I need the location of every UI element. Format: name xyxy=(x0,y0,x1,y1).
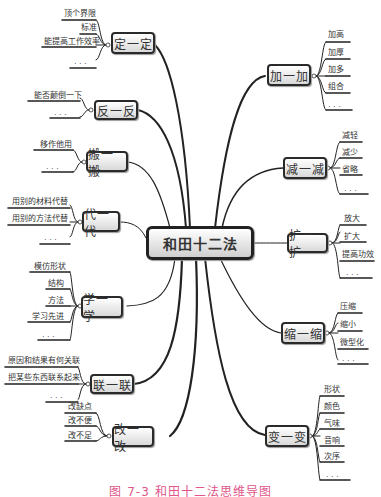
leaf-item: 方法 xyxy=(48,296,64,306)
leaf-item: 减轻 xyxy=(342,131,358,141)
branch-label: 减一减 xyxy=(286,160,325,177)
leaf-item: 形状 xyxy=(324,385,340,395)
leaf-item: 加厚 xyxy=(328,48,344,58)
figure-caption: 图 7-3 和田十二法思维导图 xyxy=(0,482,381,497)
leaf-item: 省略 xyxy=(342,165,358,175)
branch-kuo[interactable]: 扩一扩 xyxy=(287,233,328,253)
leaf-item: . . . xyxy=(42,330,55,340)
leaf-item: 顶个界限 xyxy=(64,9,96,19)
leaf-item: 把某些东西联系起来 xyxy=(8,373,80,383)
leaf-item: 标准 xyxy=(81,23,97,33)
branch-label: 反一反 xyxy=(97,102,136,119)
leaf-item: 压缩 xyxy=(340,302,356,312)
branch-xue[interactable]: 学一学 xyxy=(81,296,123,318)
branch-label: 学一学 xyxy=(83,290,121,324)
leaf-item: 能提高工作效率 xyxy=(44,37,100,47)
branch-label: 缩一缩 xyxy=(284,325,323,342)
leaf-item: 组合 xyxy=(328,82,344,92)
branch-fan[interactable]: 反一反 xyxy=(94,100,138,120)
leaf-item: 音响 xyxy=(324,436,340,446)
leaf-item: 次序 xyxy=(324,452,340,462)
branch-jian[interactable]: 减一减 xyxy=(283,157,327,179)
leaf-item: 放大 xyxy=(344,214,360,224)
leaf-item: 加高 xyxy=(328,30,344,40)
center-label: 和田十二法 xyxy=(163,233,238,253)
leaf-item: 改不足 xyxy=(68,431,92,441)
branch-label: 搬一搬 xyxy=(88,145,126,179)
branch-label: 联一联 xyxy=(93,376,132,393)
leaf-item: 颜色 xyxy=(324,402,340,412)
branch-label: 定一定 xyxy=(114,35,153,52)
branch-ding[interactable]: 定一定 xyxy=(111,32,155,54)
leaf-item: . . . xyxy=(50,391,63,401)
leaf-item: 缩小 xyxy=(340,320,356,330)
leaf-item: . . . xyxy=(342,354,355,364)
branch-lian[interactable]: 联一联 xyxy=(90,374,134,394)
leaf-item: 能否颠倒一下 xyxy=(34,91,82,101)
leaf-item: 改缺点 xyxy=(68,402,92,412)
leaf-item: . . . xyxy=(54,108,67,118)
leaf-item: . . . xyxy=(344,184,357,194)
leaf-item: 加多 xyxy=(328,65,344,75)
leaf-item: . . . xyxy=(44,233,57,243)
branch-label: 改一改 xyxy=(114,420,152,454)
leaf-item: 改不便 xyxy=(68,416,92,426)
leaf-item: . . . xyxy=(328,100,341,110)
leaf-item: 减少 xyxy=(342,148,358,158)
branch-ban[interactable]: 搬一搬 xyxy=(86,151,128,172)
leaf-item: 学习先进 xyxy=(32,312,64,322)
branch-label: 代一代 xyxy=(84,205,118,239)
leaf-item: 模仿形状 xyxy=(34,262,66,272)
branch-bian[interactable]: 变一变 xyxy=(265,425,309,447)
leaf-item: . . . xyxy=(326,470,339,480)
leaf-item: 提高功效 xyxy=(342,250,374,260)
leaf-item: 结构 xyxy=(48,279,64,289)
branch-label: 变一变 xyxy=(268,428,307,445)
leaf-item: 用别的方法代替 xyxy=(12,214,68,224)
branch-label: 加一加 xyxy=(270,67,309,84)
leaf-item: 移作他用 xyxy=(40,140,72,150)
center-node[interactable]: 和田十二法 xyxy=(146,226,254,260)
leaf-item: 扩大 xyxy=(344,232,360,242)
leaf-item: . . . xyxy=(74,57,87,67)
branch-dai[interactable]: 代一代 xyxy=(82,211,120,232)
leaf-item: 原因和结果有何关联 xyxy=(8,356,80,366)
branch-jia[interactable]: 加一加 xyxy=(267,64,311,86)
branch-gai[interactable]: 改一改 xyxy=(112,426,154,447)
branch-suo[interactable]: 缩一缩 xyxy=(281,322,325,344)
branch-label: 扩一扩 xyxy=(289,226,326,260)
leaf-item: . . . xyxy=(346,268,359,278)
leaf-item: 微型化 xyxy=(340,338,364,348)
leaf-item: 用别的材料代替 xyxy=(12,197,68,207)
leaf-item: 气味 xyxy=(324,419,340,429)
leaf-item: . . . xyxy=(46,162,59,172)
